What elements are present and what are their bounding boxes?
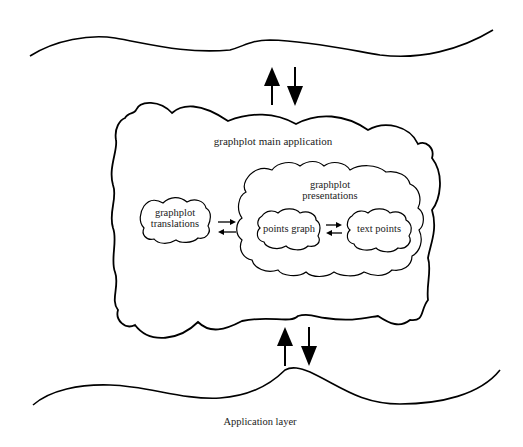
top-up-arrow-icon bbox=[264, 67, 280, 105]
presentations-label: graphplot presentations bbox=[290, 180, 370, 201]
translations-label: graphplot translations bbox=[142, 208, 208, 229]
presentations-label-line1: graphplot bbox=[290, 180, 370, 191]
points-graph-label: points graph bbox=[260, 224, 318, 235]
bottom-down-arrow-icon bbox=[301, 327, 317, 366]
top-boundary-line bbox=[30, 30, 493, 56]
to-translations-arrow-icon bbox=[218, 229, 236, 235]
to-presentations-arrow-icon bbox=[218, 219, 236, 225]
bottom-boundary-line bbox=[33, 368, 500, 405]
top-down-arrow-icon bbox=[287, 67, 303, 106]
translations-label-line1: graphplot bbox=[142, 208, 208, 219]
text-points-label: text points bbox=[350, 224, 408, 235]
application-layer-label: Application layer bbox=[210, 417, 310, 428]
main-application-label: graphplot main application bbox=[205, 136, 341, 147]
to-text-points-arrow-icon bbox=[326, 222, 342, 228]
to-points-graph-arrow-icon bbox=[326, 230, 342, 236]
translations-label-line2: translations bbox=[142, 219, 208, 230]
presentations-label-line2: presentations bbox=[290, 191, 370, 202]
bottom-up-arrow-icon bbox=[277, 327, 293, 366]
